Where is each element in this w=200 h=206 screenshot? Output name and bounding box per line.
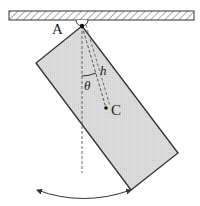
physical-pendulum-diagram: A C θ h xyxy=(0,0,200,206)
ceiling-support xyxy=(9,11,194,20)
distance-h-label: h xyxy=(100,63,107,78)
pivot-label: A xyxy=(52,21,63,37)
center-of-mass-point xyxy=(104,106,108,110)
center-of-mass-label: C xyxy=(111,102,121,118)
pivot-point xyxy=(80,24,84,28)
swing-arrow xyxy=(37,190,131,199)
angle-theta-label: θ xyxy=(84,78,91,93)
